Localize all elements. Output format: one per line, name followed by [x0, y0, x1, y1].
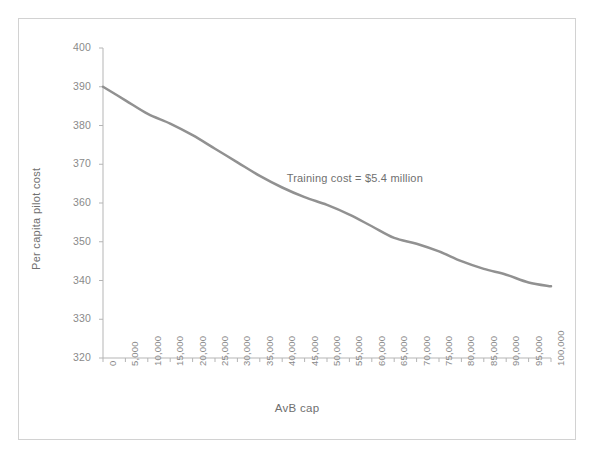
y-tick-label: 380	[57, 119, 91, 131]
x-tick-label: 85,000	[488, 336, 499, 366]
data-series-line	[103, 87, 551, 287]
plot-svg	[0, 0, 594, 459]
y-tick-label: 390	[57, 80, 91, 92]
y-tick-label: 370	[57, 157, 91, 169]
x-tick-label: 15,000	[174, 336, 185, 366]
y-tick-label: 340	[57, 274, 91, 286]
x-tick-label: 5,000	[129, 341, 140, 366]
figure-container: 400390380370360350340330320 05,00010,000…	[0, 0, 594, 459]
y-tick-label: 330	[57, 312, 91, 324]
x-tick-label: 100,000	[555, 330, 566, 366]
x-tick-label: 35,000	[264, 336, 275, 366]
y-tick-label: 320	[57, 351, 91, 363]
x-tick-label: 50,000	[331, 336, 342, 366]
x-tick-label: 45,000	[309, 336, 320, 366]
x-tick-label: 75,000	[443, 336, 454, 366]
x-tick-label: 80,000	[465, 336, 476, 366]
chart-annotation: Training cost = $5.4 million	[287, 172, 423, 184]
line-chart: 400390380370360350340330320 05,00010,000…	[0, 0, 594, 459]
x-tick-label: 30,000	[241, 336, 252, 366]
y-axis-title: Per capita pilot cost	[30, 168, 42, 270]
x-tick-label: 60,000	[376, 336, 387, 366]
x-tick-label: 20,000	[197, 336, 208, 366]
x-tick-label: 40,000	[286, 336, 297, 366]
x-axis-ticks	[103, 358, 551, 362]
x-tick-label: 95,000	[533, 336, 544, 366]
x-tick-label: 25,000	[219, 336, 230, 366]
x-tick-label: 10,000	[152, 336, 163, 366]
y-tick-label: 350	[57, 235, 91, 247]
y-tick-label: 360	[57, 196, 91, 208]
x-tick-label: 70,000	[421, 336, 432, 366]
x-axis-title: AvB cap	[0, 402, 594, 414]
x-tick-label: 0	[107, 361, 118, 366]
x-tick-label: 65,000	[398, 336, 409, 366]
x-tick-label: 55,000	[353, 336, 364, 366]
y-tick-label: 400	[57, 41, 91, 53]
x-tick-label: 90,000	[510, 336, 521, 366]
y-axis-ticks	[99, 48, 103, 358]
